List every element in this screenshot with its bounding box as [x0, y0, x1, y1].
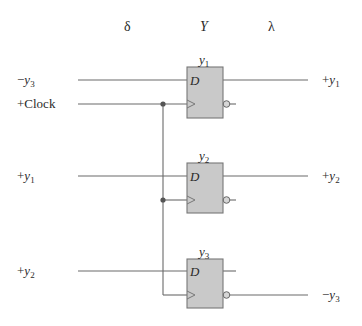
flipflop-label-y2: y2	[199, 149, 209, 165]
inversion-bubble-icon	[223, 292, 230, 299]
junction-dot-icon	[160, 101, 165, 106]
input-label-plus-y1: +y1	[17, 169, 35, 185]
circuit-diagram	[0, 0, 362, 326]
header-delta: δ	[124, 20, 131, 34]
output-label-plus-y2: +y2	[322, 169, 340, 185]
input-label-clock: +Clock	[17, 97, 55, 110]
inversion-bubble-icon	[223, 101, 230, 108]
input-label-plus-y2: +y2	[17, 264, 35, 280]
output-label-minus-y3: −y3	[322, 288, 340, 304]
d-input-label: D	[190, 170, 199, 183]
output-label-plus-y1: +y1	[322, 73, 340, 89]
input-label-minus-y3: −y3	[17, 73, 35, 89]
header-lambda: λ	[268, 20, 275, 34]
junction-dot-icon	[160, 197, 165, 202]
flipflop-label-y1: y1	[199, 53, 209, 69]
inversion-bubble-icon	[223, 197, 230, 204]
d-input-label: D	[190, 265, 199, 278]
header-Y: Y	[200, 20, 208, 34]
d-input-label: D	[190, 74, 199, 87]
flipflop-label-y3: y3	[199, 245, 209, 261]
